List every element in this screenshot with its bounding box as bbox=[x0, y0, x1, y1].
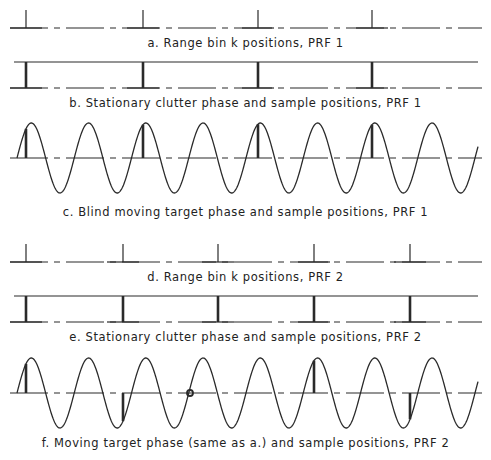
caption-a: a. Range bin k positions, PRF 1 bbox=[0, 36, 491, 50]
caption-e: e. Stationary clutter phase and sample p… bbox=[0, 330, 491, 344]
caption-b: b. Stationary clutter phase and sample p… bbox=[0, 96, 491, 110]
caption-c: c. Blind moving target phase and sample … bbox=[0, 205, 491, 219]
caption-d: d. Range bin k positions, PRF 2 bbox=[0, 270, 491, 284]
radar-prf-diagram bbox=[0, 0, 491, 460]
caption-f: f. Moving target phase (same as a.) and … bbox=[0, 436, 491, 450]
